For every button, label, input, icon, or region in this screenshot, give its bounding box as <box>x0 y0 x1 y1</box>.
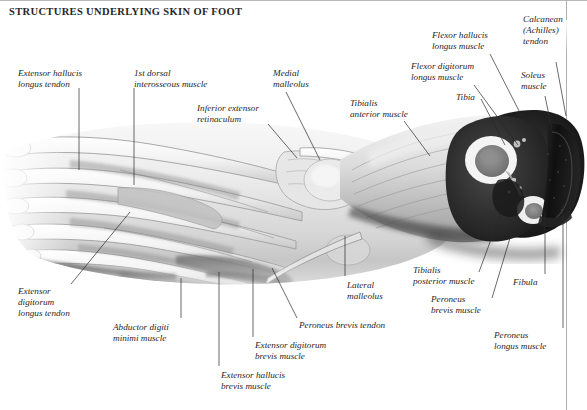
anatomy-plate: STRUCTURES UNDERLYING SKIN OF FOOT <box>0 0 587 410</box>
label-tibialis-posterior-muscle: Tibialis posterior muscle <box>413 265 475 287</box>
tibia-bone <box>465 136 517 184</box>
label-flexor-digitorum-longus-muscle: Flexor digitorum longus muscle <box>411 61 474 83</box>
label-inferior-extensor-retinaculum: Inferior extensor retinaculum <box>197 103 259 125</box>
label-extensor-hallucis-brevis-muscle: Extensor hallucis brevis muscle <box>221 370 285 392</box>
label-peroneus-brevis-tendon: Peroneus brevis tendon <box>299 320 385 331</box>
label-first-dorsal-interosseous-muscle: 1st dorsal interosseous muscle <box>134 68 207 90</box>
leg-cross-section <box>446 110 585 242</box>
label-medial-malleolus: Medial malleolus <box>273 68 309 90</box>
page-title: STRUCTURES UNDERLYING SKIN OF FOOT <box>9 6 242 17</box>
label-extensor-digitorum-longus-tendon: Extensor digitorum longus tendon <box>18 286 70 320</box>
label-soleus-muscle: Soleus muscle <box>521 70 547 92</box>
label-flexor-hallucis-longus-muscle: Flexor hallucis longus muscle <box>432 30 488 52</box>
label-abductor-digiti-minimi-muscle: Abductor digiti minimi muscle <box>113 322 169 344</box>
label-peroneus-longus-muscle: Peroneus longus muscle <box>494 330 546 352</box>
label-tibialis-anterior-muscle: Tibialis anterior muscle <box>350 98 408 120</box>
label-calcanean-achilles-tendon: Calcanean (Achilles) tendon <box>523 14 563 48</box>
label-extensor-hallucis-longus-tendon: Extensor hallucis longus tendon <box>18 68 82 90</box>
label-lateral-malleolus: Lateral malleolus <box>347 280 383 302</box>
top-rule <box>0 0 587 1</box>
label-fibula: Fibula <box>513 277 538 288</box>
anatomical-illustration <box>0 20 587 305</box>
label-tibia: Tibia <box>456 92 475 103</box>
label-extensor-digitorum-brevis-muscle: Extensor digitorum brevis muscle <box>255 340 326 362</box>
label-peroneus-brevis-muscle: Peroneus brevis muscle <box>431 294 481 316</box>
